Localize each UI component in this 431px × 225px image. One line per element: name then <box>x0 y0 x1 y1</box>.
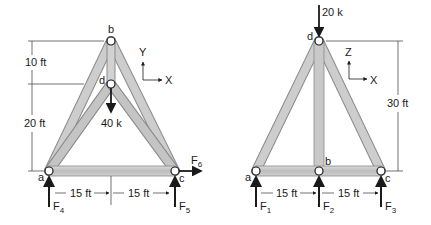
dim-left-span: 15 ft <box>70 187 91 199</box>
left-members <box>49 41 175 176</box>
joint-d <box>107 80 115 88</box>
member-bd <box>314 41 324 171</box>
left-truss: 10 ft 20 ft 15 ft 15 ft 40 k Y X F4 F5 F… <box>24 23 203 215</box>
joint-a-label: a <box>245 171 252 183</box>
joint-a-label: a <box>38 171 45 183</box>
dim-top-height: 10 ft <box>25 56 46 68</box>
joint-c-label: c <box>385 172 391 184</box>
dim-bottom-height: 20 ft <box>24 117 45 129</box>
load-label: 20 k <box>322 6 343 18</box>
dim-height: 30 ft <box>387 97 408 109</box>
joint-d-label: d <box>307 30 313 42</box>
load-label: 40 k <box>101 117 122 129</box>
axis-z-label: Z <box>345 46 352 58</box>
joint-d <box>315 37 323 45</box>
member-ac <box>49 166 175 176</box>
axes-icon <box>143 62 162 80</box>
force-f4-label: F4 <box>53 200 65 215</box>
joint-b <box>107 37 115 45</box>
joint-b <box>315 167 323 175</box>
force-f2-label: F2 <box>323 200 335 215</box>
truss-diagram: 10 ft 20 ft 15 ft 15 ft 40 k Y X F4 F5 F… <box>0 0 431 225</box>
force-f6-label: F6 <box>191 154 203 169</box>
dim-left-span: 15 ft <box>276 187 297 199</box>
joint-c-label: c <box>179 172 185 184</box>
joint-b-label: b <box>325 155 331 167</box>
axis-x-label: X <box>165 74 173 86</box>
joint-d-label: d <box>99 74 105 86</box>
axes-icon <box>349 61 367 79</box>
force-f5-label: F5 <box>179 200 191 215</box>
axis-y-label: Y <box>139 46 147 58</box>
axis-x-label: X <box>370 74 378 86</box>
joint-b-label: b <box>108 23 114 35</box>
joint-a <box>252 167 260 175</box>
joint-a <box>45 167 53 175</box>
right-truss: 30 ft 15 ft 15 ft 20 k Z X F1 F2 F3 a b … <box>245 5 408 215</box>
force-f1-label: F1 <box>260 200 272 215</box>
force-f3-label: F3 <box>385 200 397 215</box>
joint-c <box>171 167 179 175</box>
dim-right-span: 15 ft <box>128 187 149 199</box>
dim-right-span: 15 ft <box>338 187 359 199</box>
joint-c <box>377 167 385 175</box>
